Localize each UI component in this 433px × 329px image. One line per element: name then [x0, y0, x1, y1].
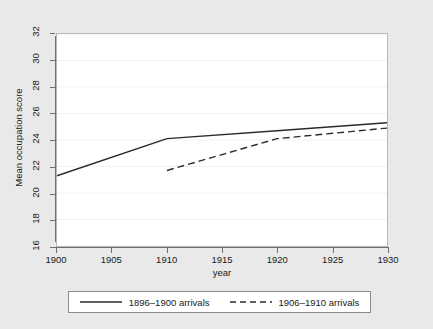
- x-tick-mark: [277, 248, 278, 253]
- x-tick-mark: [388, 248, 389, 253]
- y-tick-label: 30: [30, 45, 41, 71]
- series-line-1: [167, 128, 387, 170]
- chart-legend: 1896–1900 arrivals1906–1910 arrivals: [68, 291, 371, 313]
- x-tick-mark: [333, 248, 334, 253]
- y-tick-label: 18: [30, 206, 41, 232]
- x-tick-mark: [111, 248, 112, 253]
- y-tick-mark: [50, 167, 55, 168]
- y-tick-label: 26: [30, 99, 41, 125]
- legend-entry: 1896–1900 arrivals: [80, 297, 210, 308]
- x-tick-label: 1920: [257, 254, 297, 265]
- chart-figure: 161820222426283032 190019051910191519201…: [0, 0, 433, 329]
- legend-key-solid-icon: [80, 298, 122, 306]
- x-tick-label: 1925: [313, 254, 353, 265]
- y-axis-title: Mean occupation score: [13, 76, 24, 200]
- y-tick-label: 24: [30, 126, 41, 152]
- y-tick-mark: [50, 113, 55, 114]
- legend-label: 1906–1910 arrivals: [279, 297, 360, 308]
- series-line-0: [57, 123, 387, 176]
- x-tick-label: 1900: [36, 254, 76, 265]
- legend-key-dashed-icon: [230, 298, 272, 306]
- x-tick-mark: [222, 248, 223, 253]
- y-tick-mark: [50, 140, 55, 141]
- x-tick-mark: [56, 248, 57, 253]
- y-axis-line: [55, 36, 56, 242]
- x-tick-label: 1915: [202, 254, 242, 265]
- x-tick-mark: [167, 248, 168, 253]
- plot-area: [56, 33, 388, 247]
- y-tick-mark: [50, 220, 55, 221]
- y-tick-mark: [50, 87, 55, 88]
- y-tick-mark: [50, 33, 55, 34]
- series-lines: [57, 34, 387, 246]
- x-tick-label: 1905: [91, 254, 131, 265]
- legend-entry: 1906–1910 arrivals: [230, 297, 360, 308]
- x-tick-label: 1910: [147, 254, 187, 265]
- legend-label: 1896–1900 arrivals: [129, 297, 210, 308]
- y-tick-label: 20: [30, 179, 41, 205]
- x-axis-title: year: [56, 267, 388, 278]
- y-tick-label: 32: [30, 19, 41, 45]
- x-tick-label: 1930: [368, 254, 408, 265]
- y-tick-label: 28: [30, 72, 41, 98]
- y-tick-mark: [50, 194, 55, 195]
- y-tick-label: 22: [30, 152, 41, 178]
- y-tick-mark: [50, 60, 55, 61]
- y-tick-mark: [50, 247, 55, 248]
